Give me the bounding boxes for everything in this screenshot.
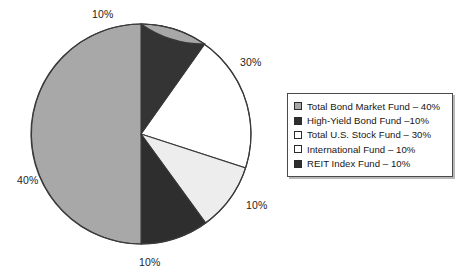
legend-item-high-yield-bond-fund[interactable]: High-Yield Bond Fund –10% [294, 113, 446, 127]
legend-swatch-icon [294, 160, 302, 168]
legend-item-total-bond-market-fund[interactable]: Total Bond Market Fund – 40% [294, 99, 446, 113]
legend-item-total-us-stock-fund[interactable]: Total U.S. Stock Fund – 30% [294, 128, 446, 142]
legend-swatch-icon [294, 117, 302, 125]
legend-item-label: Total Bond Market Fund – 40% [307, 101, 440, 112]
chart-legend: Total Bond Market Fund – 40% High-Yield … [287, 93, 453, 177]
legend-item-reit-index-fund[interactable]: REIT Index Fund – 10% [294, 157, 446, 171]
legend-swatch-icon [294, 131, 302, 139]
pie-label-international-fund: 10% [246, 199, 267, 211]
pie-chart-graphic [0, 0, 280, 275]
pie-svg [0, 0, 280, 275]
legend-item-label: International Fund – 10% [307, 144, 415, 155]
legend-swatch-icon [294, 145, 302, 153]
pie-label-high-yield-bond-fund: 10% [92, 8, 113, 20]
pie-chart-figure: 10% 30% 10% 10% 40% Total Bond Market Fu… [0, 0, 463, 275]
legend-item-label: REIT Index Fund – 10% [307, 158, 410, 169]
legend-item-international-fund[interactable]: International Fund – 10% [294, 142, 446, 156]
legend-item-label: Total U.S. Stock Fund – 30% [307, 129, 431, 140]
pie-label-total-us-stock-fund: 30% [240, 56, 261, 68]
legend-item-label: High-Yield Bond Fund –10% [307, 115, 429, 126]
pie-label-total-bond-market-fund: 40% [17, 174, 38, 186]
pie-label-reit-index-fund: 10% [139, 256, 160, 268]
legend-swatch-icon [294, 102, 302, 110]
